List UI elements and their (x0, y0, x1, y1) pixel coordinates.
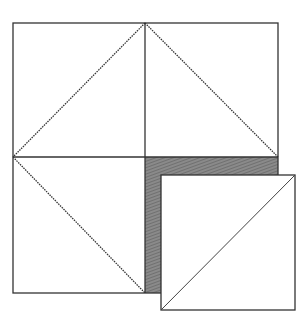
diamond-edge-top-right (145, 23, 278, 157)
diamond-edge-top-left (13, 23, 145, 157)
diamond-edge-bottom-left (13, 157, 145, 293)
geometry-diagram (0, 0, 308, 324)
